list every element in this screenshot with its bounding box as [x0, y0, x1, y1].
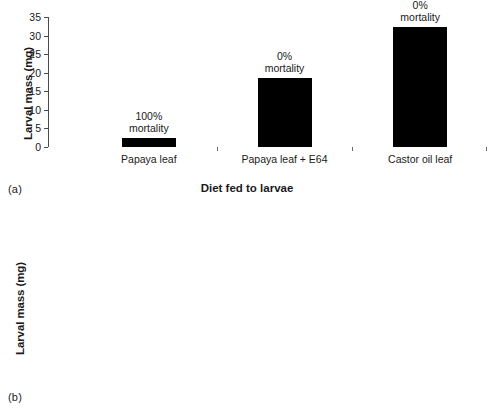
- y-axis-tick: [44, 91, 48, 92]
- bar-annotation-percent: 100%: [129, 110, 169, 122]
- y-axis-tick: [44, 73, 48, 74]
- y-axis-line-a: [48, 17, 49, 147]
- y-axis-tick-label: 20: [29, 67, 41, 78]
- bar-annotation: 0%mortality: [400, 0, 440, 23]
- bar-annotation: 0%mortality: [265, 50, 305, 74]
- chart-panel-b: (b) Larval mass (mg) 14121086420 0%morta…: [0, 209, 495, 418]
- y-axis-tick-label: 30: [29, 30, 41, 41]
- y-axis-tick-label: 35: [29, 12, 41, 23]
- x-axis-tick: [217, 147, 218, 151]
- y-axis-tick: [44, 36, 48, 37]
- x-axis-tick: [352, 147, 353, 151]
- bar-annotation-percent: 0%: [265, 50, 305, 62]
- bar-annotation-percent: 0%: [400, 0, 440, 11]
- y-axis-tick: [44, 147, 48, 148]
- panel-letter-b: (b): [8, 391, 22, 403]
- y-axis-tick-label: 25: [29, 49, 41, 60]
- y-axis-tick-label: 15: [29, 86, 41, 97]
- x-axis-tick: [486, 147, 487, 151]
- plot-area-a: 35302520151050 100%mortality0%mortality0…: [48, 17, 488, 147]
- x-axis-category-label: Papaya leaf + E64: [241, 153, 327, 165]
- panel-letter-a: (a): [8, 183, 22, 195]
- y-axis-tick: [44, 17, 48, 18]
- y-axis-tick: [44, 110, 48, 111]
- x-axis-title-a: Diet fed to larvae: [201, 182, 294, 194]
- bar: [122, 138, 176, 147]
- y-axis-tick: [44, 128, 48, 129]
- bar-annotation-label: mortality: [129, 122, 169, 134]
- bar-annotation-label: mortality: [265, 62, 305, 74]
- y-axis-tick: [44, 54, 48, 55]
- y-axis-title-b: Larval mass (mg): [14, 262, 26, 355]
- bar-annotation: 100%mortality: [129, 110, 169, 134]
- bar-annotation-label: mortality: [400, 11, 440, 23]
- y-axis-tick-label: 10: [29, 105, 41, 116]
- bar: [258, 78, 312, 147]
- chart-panel-a: (a) Larval mass (mg) 35302520151050 100%…: [0, 0, 495, 209]
- y-axis-tick-label: 0: [35, 142, 41, 153]
- bar: [393, 27, 447, 147]
- y-axis-tick-label: 5: [35, 123, 41, 134]
- x-axis-category-label: Castor oil leaf: [388, 153, 452, 165]
- x-axis-category-label: Papaya leaf: [121, 153, 176, 165]
